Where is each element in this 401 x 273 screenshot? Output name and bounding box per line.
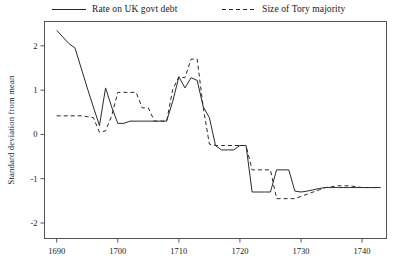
y-tick-label: -2 — [30, 218, 37, 228]
x-tick-label: 1720 — [231, 246, 248, 256]
x-tick-label: 1710 — [170, 246, 187, 256]
x-axis-ticks — [57, 239, 362, 243]
y-axis-title-text: Standard deviation from mean — [6, 75, 16, 184]
plot-frame — [45, 22, 387, 239]
x-tick-label: 1740 — [354, 246, 371, 256]
chart-container: Rate on UK govt debt Size of Tory majori… — [0, 0, 401, 273]
y-tick-label: 2 — [33, 41, 37, 51]
series-line-rate-on-uk-govt-debt — [57, 30, 381, 192]
x-tick-label: 1700 — [109, 246, 126, 256]
x-tick-label: 1730 — [293, 246, 310, 256]
x-axis-tick-labels: 169017001710172017301740 — [48, 246, 370, 256]
y-axis-tick-labels: 210-1-2 — [30, 41, 37, 228]
y-axis-title: Standard deviation from mean — [6, 75, 16, 184]
y-tick-label: 1 — [33, 85, 37, 95]
series-line-size-of-tory-majority — [57, 59, 381, 199]
y-axis-ticks — [41, 46, 45, 223]
x-tick-label: 1690 — [48, 246, 65, 256]
y-tick-label: 0 — [33, 129, 37, 139]
y-tick-label: -1 — [30, 174, 37, 184]
plot-svg: 210-1-2 169017001710172017301740 Standar… — [0, 0, 401, 273]
